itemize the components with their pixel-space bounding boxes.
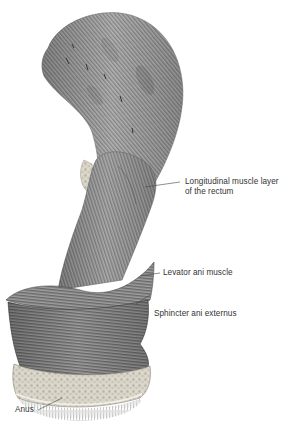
sphincter-externus [8, 300, 149, 375]
label-longitudinal-line2: of the rectum [185, 187, 279, 197]
label-longitudinal-line1: Longitudinal muscle layer [185, 177, 279, 187]
label-levator-ani: Levator ani muscle [163, 268, 233, 278]
label-anus: Anus [15, 405, 34, 415]
label-longitudinal-muscle: Longitudinal muscle layer of the rectum [185, 177, 279, 196]
anatomical-illustration [0, 0, 301, 423]
label-sphincter-externus: Sphincter ani externus [154, 309, 237, 319]
rectum-lower [58, 152, 156, 290]
